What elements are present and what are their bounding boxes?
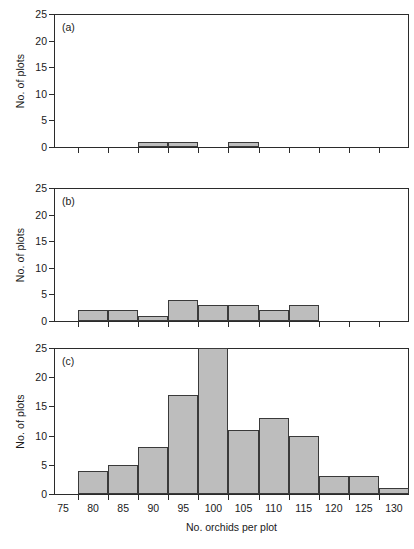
x-tick bbox=[228, 495, 229, 500]
histogram-bar bbox=[78, 310, 108, 321]
y-axis-title: No. of plots bbox=[14, 185, 26, 325]
x-tick-label: 80 bbox=[87, 502, 99, 514]
y-tick-label: 20 bbox=[35, 209, 47, 221]
x-tick bbox=[349, 322, 350, 327]
y-tick bbox=[49, 14, 54, 15]
panel-label: (a) bbox=[62, 21, 75, 33]
x-tick bbox=[379, 495, 380, 500]
x-tick-label: 130 bbox=[385, 502, 403, 514]
y-tick bbox=[49, 41, 54, 42]
y-tick-label: 10 bbox=[35, 430, 47, 442]
x-tick bbox=[78, 495, 79, 500]
x-tick-label: 90 bbox=[147, 502, 159, 514]
axis-right bbox=[408, 14, 409, 148]
panel-a: 0510152025(a)No. of plots bbox=[0, 14, 414, 148]
y-tick-label: 20 bbox=[35, 371, 47, 383]
y-tick-label: 25 bbox=[35, 342, 47, 354]
x-tick-label: 95 bbox=[178, 502, 190, 514]
x-tick bbox=[168, 495, 169, 500]
y-tick bbox=[49, 188, 54, 189]
histogram-bar bbox=[289, 305, 319, 321]
x-tick bbox=[198, 322, 199, 327]
orchid-histogram-figure: 0510152025(a)No. of plots0510152025(b)No… bbox=[0, 0, 414, 549]
x-tick bbox=[138, 495, 139, 500]
y-tick-label: 15 bbox=[35, 235, 47, 247]
x-tick bbox=[138, 148, 139, 153]
y-tick bbox=[49, 465, 54, 466]
y-tick-label: 20 bbox=[35, 35, 47, 47]
plot-area: 0510152025(a) bbox=[54, 14, 409, 148]
x-tick bbox=[168, 322, 169, 327]
x-tick bbox=[78, 148, 79, 153]
x-tick-label: 120 bbox=[325, 502, 343, 514]
y-tick-label: 0 bbox=[41, 315, 47, 327]
x-tick bbox=[259, 148, 260, 153]
axis-top bbox=[54, 188, 409, 189]
panel-b: 0510152025(b)No. of plots bbox=[0, 188, 414, 322]
y-tick-label: 15 bbox=[35, 400, 47, 412]
y-tick-label: 5 bbox=[41, 288, 47, 300]
x-tick bbox=[319, 495, 320, 500]
y-tick bbox=[49, 377, 54, 378]
histogram-bar bbox=[108, 465, 138, 494]
x-tick bbox=[259, 322, 260, 327]
axis-left bbox=[54, 14, 55, 148]
y-tick bbox=[49, 348, 54, 349]
histogram-bar bbox=[108, 310, 138, 321]
y-tick-label: 25 bbox=[35, 8, 47, 20]
x-tick bbox=[289, 148, 290, 153]
y-axis-title: No. of plots bbox=[14, 11, 26, 151]
x-tick bbox=[259, 495, 260, 500]
y-tick bbox=[49, 436, 54, 437]
y-tick-label: 15 bbox=[35, 61, 47, 73]
y-tick bbox=[49, 294, 54, 295]
y-tick bbox=[49, 494, 54, 495]
y-tick-label: 10 bbox=[35, 88, 47, 100]
histogram-bar bbox=[78, 471, 108, 494]
y-tick-label: 0 bbox=[41, 488, 47, 500]
plot-area: 0510152025(b) bbox=[54, 188, 409, 322]
histogram-bar bbox=[379, 488, 409, 494]
histogram-bar bbox=[228, 305, 258, 321]
x-tick-label: 85 bbox=[117, 502, 129, 514]
panel-label: (b) bbox=[62, 195, 75, 207]
x-tick-label: 110 bbox=[265, 502, 282, 514]
histogram-bar bbox=[289, 436, 319, 494]
histogram-bar bbox=[228, 142, 258, 147]
y-tick bbox=[49, 406, 54, 407]
axis-left bbox=[54, 348, 55, 495]
panel-label: (c) bbox=[62, 355, 74, 367]
x-tick-label: 100 bbox=[205, 502, 223, 514]
y-tick-label: 5 bbox=[41, 114, 47, 126]
y-tick-label: 25 bbox=[35, 182, 47, 194]
x-tick bbox=[319, 148, 320, 153]
y-tick-label: 5 bbox=[41, 459, 47, 471]
axis-right bbox=[408, 348, 409, 495]
y-tick bbox=[49, 94, 54, 95]
histogram-bar bbox=[259, 418, 289, 494]
x-axis-title: No. orchids per plot bbox=[54, 521, 409, 533]
y-tick bbox=[49, 321, 54, 322]
y-tick bbox=[49, 268, 54, 269]
histogram-bar bbox=[198, 348, 228, 494]
x-tick bbox=[228, 148, 229, 153]
x-tick bbox=[289, 495, 290, 500]
axis-top bbox=[54, 14, 409, 15]
histogram-bar bbox=[349, 476, 379, 494]
axis-right bbox=[408, 188, 409, 322]
x-tick bbox=[349, 148, 350, 153]
histogram-bar bbox=[138, 142, 168, 147]
x-tick-label: 105 bbox=[235, 502, 253, 514]
x-tick bbox=[319, 322, 320, 327]
x-tick bbox=[108, 495, 109, 500]
histogram-bar bbox=[319, 476, 349, 494]
x-tick-label: 115 bbox=[295, 502, 312, 514]
x-tick-label: 75 bbox=[57, 502, 69, 514]
y-tick-label: 10 bbox=[35, 262, 47, 274]
histogram-bar bbox=[198, 305, 228, 321]
axis-top bbox=[54, 348, 409, 349]
y-tick bbox=[49, 241, 54, 242]
x-tick bbox=[108, 322, 109, 327]
histogram-bar bbox=[168, 142, 198, 147]
histogram-bar bbox=[138, 447, 168, 494]
